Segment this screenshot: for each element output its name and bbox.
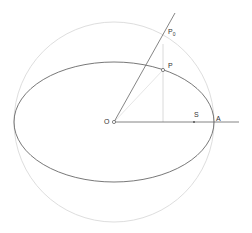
label-s: S: [194, 111, 199, 118]
center-point: [112, 120, 115, 123]
radius-line-op0: [114, 13, 175, 122]
label-a: A: [216, 115, 221, 122]
point-p: [161, 68, 164, 71]
label-o: O: [104, 118, 109, 125]
label-p: P: [168, 62, 173, 69]
label-p0: P0: [168, 28, 175, 37]
focus-point: [193, 121, 195, 123]
label-p0-sub: 0: [173, 31, 176, 37]
diagram-canvas: [0, 0, 252, 233]
